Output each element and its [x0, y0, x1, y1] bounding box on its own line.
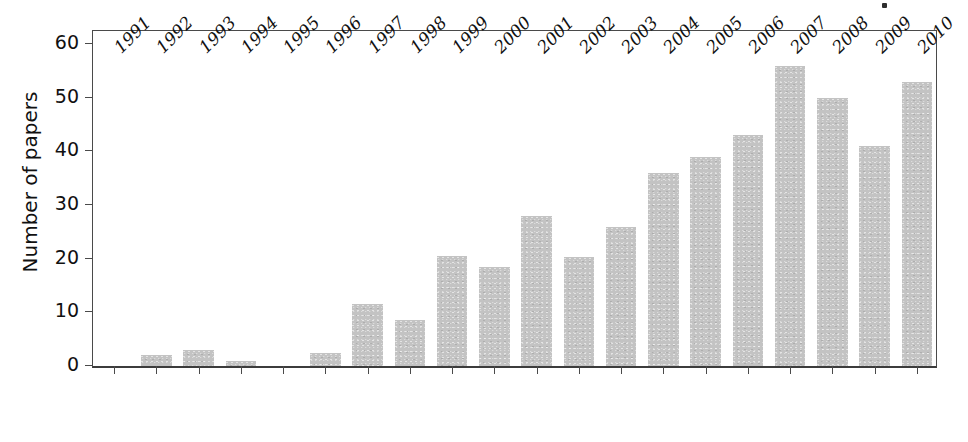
y-axis-tick-label: 50: [55, 85, 79, 107]
x-axis-tick-label: 1998: [406, 12, 451, 57]
y-axis-tick-label: 20: [55, 246, 79, 268]
x-axis-tick: [537, 366, 538, 374]
bar: [395, 320, 425, 366]
bar: [733, 135, 763, 366]
x-axis-tick-label: 2006: [744, 12, 789, 57]
x-axis-tick-label: 2004: [659, 12, 704, 57]
bar: [183, 350, 213, 366]
x-axis-tick-label: 1999: [448, 12, 493, 57]
x-axis-tick: [917, 366, 918, 374]
x-axis-tick: [494, 366, 495, 374]
bar: [606, 227, 636, 366]
x-axis-tick: [156, 366, 157, 374]
x-axis-tick-label: 1993: [195, 12, 240, 57]
x-axis-tick: [325, 366, 326, 374]
x-axis-tick-label: 1997: [364, 12, 409, 57]
x-axis-tick-label: 1992: [152, 12, 197, 57]
y-axis-tick: 10: [85, 311, 93, 312]
x-axis-tick: [832, 366, 833, 374]
y-axis-tick: 50: [85, 97, 93, 98]
plot-area: 0102030405060199119921993199419951996199…: [92, 30, 937, 368]
x-axis-tick: [368, 366, 369, 374]
y-axis-tick: 60: [85, 43, 93, 44]
x-axis-tick: [790, 366, 791, 374]
x-axis-tick: [241, 366, 242, 374]
x-axis-tick-label: 2000: [490, 12, 535, 57]
x-axis-tick-label: 2005: [702, 12, 747, 57]
x-axis-tick-label: 1994: [237, 12, 282, 57]
x-axis-tick-label: 2009: [871, 12, 916, 57]
x-axis-tick-label: 1991: [110, 12, 155, 57]
bar: [775, 66, 805, 366]
bar: [902, 82, 932, 366]
x-axis-tick: [452, 366, 453, 374]
bar: [141, 355, 171, 366]
bar: [817, 98, 847, 366]
x-axis-tick-label: 2001: [533, 12, 578, 57]
x-axis-tick: [748, 366, 749, 374]
bar: [310, 353, 340, 366]
y-axis-tick: 30: [85, 204, 93, 205]
scan-artifact-speck: [882, 3, 887, 8]
y-axis-tick-label: 40: [55, 138, 79, 160]
x-axis-tick-label: 1995: [279, 12, 324, 57]
x-axis-tick: [875, 366, 876, 374]
y-axis-tick: 0: [85, 365, 93, 366]
x-axis-tick-label: 2008: [828, 12, 873, 57]
y-axis-tick: 40: [85, 150, 93, 151]
bar: [479, 267, 509, 366]
x-axis-tick: [706, 366, 707, 374]
bar: [859, 146, 889, 366]
bar: [521, 216, 551, 366]
x-axis-tick-label: 2010: [913, 12, 958, 57]
x-axis-tick: [663, 366, 664, 374]
x-axis-tick-label: 2002: [575, 12, 620, 57]
y-axis-tick-label: 30: [55, 192, 79, 214]
x-axis-tick: [114, 366, 115, 374]
x-axis-tick-label: 2007: [786, 12, 831, 57]
y-axis-tick: 20: [85, 258, 93, 259]
y-axis-tick-label: 60: [55, 31, 79, 53]
bar: [648, 173, 678, 366]
y-axis-title-container: Number of papers: [0, 0, 40, 380]
bar: [352, 304, 382, 366]
x-axis-tick: [621, 366, 622, 374]
bar: [564, 257, 594, 366]
y-axis-title: Number of papers: [18, 32, 42, 332]
x-axis-tick: [579, 366, 580, 374]
bar: [690, 157, 720, 366]
bar: [437, 256, 467, 366]
x-axis-tick: [199, 366, 200, 374]
x-axis-tick-label: 2003: [617, 12, 662, 57]
x-axis-tick: [283, 366, 284, 374]
y-axis-tick-label: 10: [55, 299, 79, 321]
y-axis-tick-label: 0: [67, 353, 79, 375]
figure-canvas: Number of papers 01020304050601991199219…: [0, 0, 968, 442]
x-axis-tick-label: 1996: [321, 12, 366, 57]
x-axis-tick: [410, 366, 411, 374]
